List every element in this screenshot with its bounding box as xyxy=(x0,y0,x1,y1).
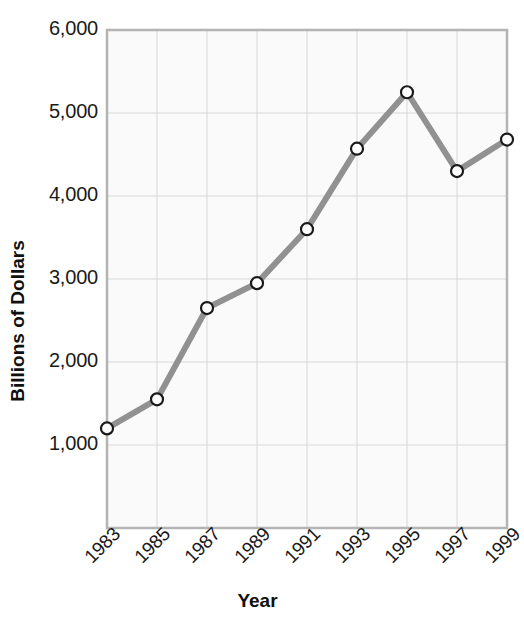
y-tick-label: 5,000 xyxy=(0,100,98,123)
data-point-marker xyxy=(351,143,363,155)
data-point-marker xyxy=(401,86,413,98)
x-axis-title: Year xyxy=(0,590,515,612)
data-point-marker xyxy=(101,422,113,434)
data-point-marker xyxy=(301,223,313,235)
data-point-marker xyxy=(201,302,213,314)
y-axis-title: Billions of Dollars xyxy=(7,196,29,446)
data-point-marker xyxy=(501,134,513,146)
data-point-marker xyxy=(151,393,163,405)
data-point-marker xyxy=(451,165,463,177)
data-point-marker xyxy=(251,277,263,289)
y-tick-label: 6,000 xyxy=(0,17,98,40)
